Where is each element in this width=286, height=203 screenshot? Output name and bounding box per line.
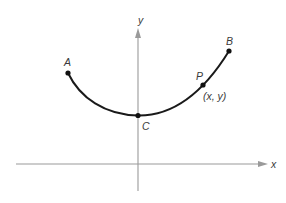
point-p-coordinates: (x, y) — [203, 90, 226, 102]
x-axis-arrow-icon — [258, 161, 268, 167]
point-a-dot — [65, 70, 70, 75]
point-p-label: P — [196, 70, 203, 82]
x-axis-label: x — [270, 158, 277, 170]
point-c-dot — [135, 113, 140, 118]
point-a-label: A — [63, 56, 71, 68]
point-p-dot — [200, 82, 205, 87]
y-axis — [135, 28, 141, 191]
point-b-dot — [226, 48, 231, 53]
y-axis-arrow-icon — [135, 28, 141, 38]
point-b-label: B — [226, 35, 233, 47]
curve-diagram: x y A B C P (x, y) — [0, 0, 286, 203]
y-axis-label: y — [137, 14, 144, 26]
x-axis — [16, 161, 268, 167]
point-c-label: C — [142, 120, 150, 132]
